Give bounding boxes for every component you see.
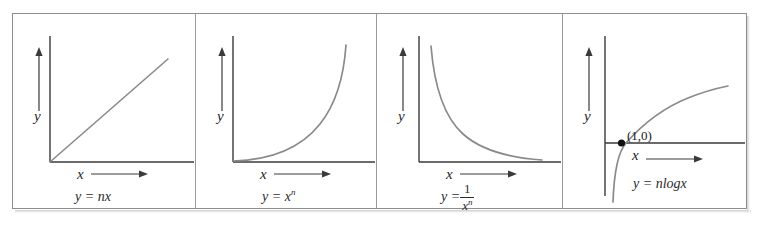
y-arrow-head bbox=[585, 47, 592, 56]
equation-label-logarithm: y = nlogx bbox=[633, 177, 687, 191]
power-curve bbox=[233, 45, 346, 161]
x-axis-label: x bbox=[632, 148, 639, 163]
point-coordinate-label: (1,0) bbox=[627, 129, 652, 142]
logarithm-panel: y x (1,0) y = nlogx bbox=[563, 14, 746, 208]
equation-label-power: y = xn bbox=[262, 190, 295, 204]
x-arrow-head bbox=[322, 170, 331, 177]
inverse-power-curve bbox=[431, 46, 542, 160]
fraction-denominator-exponent: n bbox=[468, 196, 473, 206]
linear-curve bbox=[50, 59, 168, 162]
y-axis-label: y bbox=[217, 109, 224, 124]
equation-prefix: y = bbox=[441, 189, 460, 204]
power-panel: y x y = xn bbox=[196, 14, 376, 208]
fraction-denominator: xn bbox=[460, 199, 474, 213]
figure-shadow-bottom bbox=[15, 210, 751, 213]
equation-base: y = x bbox=[262, 189, 291, 204]
fraction-numerator: 1 bbox=[460, 182, 474, 196]
point-marker-1-0 bbox=[618, 139, 625, 146]
y-axis-label: y bbox=[398, 109, 405, 124]
fraction: 1xn bbox=[460, 182, 474, 212]
y-axis-label: y bbox=[34, 109, 41, 124]
x-arrow-head bbox=[139, 170, 148, 177]
x-arrow-head bbox=[508, 170, 517, 177]
y-axis-label: y bbox=[584, 109, 591, 124]
figure-shadow-right bbox=[747, 16, 750, 212]
y-arrow-head bbox=[399, 47, 406, 56]
inverse-power-panel: y x y =1xn bbox=[377, 14, 562, 208]
x-axis-label: x bbox=[446, 167, 453, 182]
y-arrow-head bbox=[218, 47, 225, 56]
x-axis-label: x bbox=[260, 167, 267, 182]
equation-exponent: n bbox=[291, 187, 296, 197]
x-axis-label: x bbox=[77, 167, 84, 182]
figure-frame: y x y = nx y x y = xn bbox=[12, 13, 747, 209]
equation-label-linear: y = nx bbox=[75, 190, 111, 204]
y-arrow-head bbox=[35, 47, 42, 56]
linear-panel: y x y = nx bbox=[13, 14, 195, 208]
equation-label-inverse-power: y =1xn bbox=[441, 183, 474, 213]
figure-container: y x y = nx y x y = xn bbox=[0, 0, 763, 230]
x-arrow-head bbox=[694, 155, 703, 162]
